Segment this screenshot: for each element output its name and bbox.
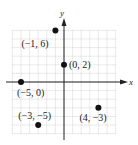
y-axis: y	[59, 8, 67, 140]
point-label: (−3, −5)	[18, 110, 51, 122]
point-label: (0, 2)	[69, 59, 91, 71]
data-point	[35, 122, 41, 128]
data-point	[52, 27, 58, 33]
y-axis-label: y	[59, 8, 64, 18]
data-points: (−1, 6)(0, 2)(−5, 0)(−3, −5)(4, −3)	[17, 27, 107, 128]
x-axis: x	[6, 77, 133, 87]
coordinate-plane: x y (−1, 6)(0, 2)(−5, 0)(−3, −5)(4, −3)	[0, 0, 138, 145]
point-label: (4, −3)	[79, 112, 106, 124]
data-point	[61, 62, 67, 68]
x-axis-label: x	[128, 77, 133, 87]
point-label: (−5, 0)	[17, 87, 44, 99]
point-label: (−1, 6)	[21, 38, 48, 50]
data-point	[18, 79, 24, 85]
data-point	[95, 105, 101, 111]
